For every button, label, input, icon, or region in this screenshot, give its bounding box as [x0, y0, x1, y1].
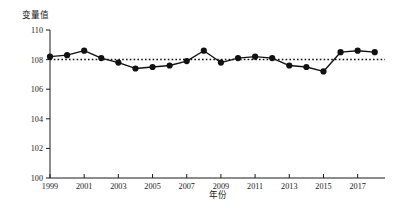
- data-point: [286, 62, 292, 68]
- y-tick-label: 108: [31, 56, 43, 65]
- y-tick-label: 102: [31, 144, 43, 153]
- series-markers: [47, 48, 378, 75]
- data-point: [64, 52, 70, 58]
- data-point: [47, 54, 53, 60]
- x-tick-label: 2017: [349, 182, 365, 191]
- y-tick-label: 106: [31, 85, 43, 94]
- y-tick-label: 110: [31, 26, 43, 35]
- data-point: [81, 48, 87, 54]
- y-tick-label: 104: [31, 115, 43, 124]
- x-tick-label: 2001: [76, 182, 92, 191]
- x-axis: 1999200120032005200720092011201320152017: [42, 174, 385, 191]
- data-point: [303, 64, 309, 70]
- x-tick-label: 2015: [315, 182, 331, 191]
- x-axis-tick-labels: 1999200120032005200720092011201320152017: [42, 182, 366, 191]
- data-point: [167, 62, 173, 68]
- line-chart: 100102104106108110 199920012003200520072…: [0, 0, 400, 208]
- data-point: [337, 49, 343, 55]
- data-point: [372, 49, 378, 55]
- x-tick-label: 2011: [247, 182, 263, 191]
- chart-canvas: 100102104106108110 199920012003200520072…: [0, 0, 400, 208]
- x-tick-label: 2005: [144, 182, 160, 191]
- x-tick-label: 1999: [42, 182, 58, 191]
- x-tick-label: 2013: [281, 182, 297, 191]
- data-point: [98, 55, 104, 61]
- data-point: [235, 55, 241, 61]
- data-point: [320, 68, 326, 74]
- data-point: [149, 64, 155, 70]
- data-point: [184, 58, 190, 64]
- data-point: [252, 54, 258, 60]
- y-axis-tick-labels: 100102104106108110: [31, 26, 43, 183]
- x-tick-label: 2007: [179, 182, 195, 191]
- series-line-path: [50, 51, 375, 72]
- data-point: [355, 48, 361, 54]
- y-axis-ticks: [46, 30, 50, 178]
- x-axis-title: 年份: [209, 189, 227, 200]
- data-point: [218, 59, 224, 65]
- x-axis-ticks: [50, 174, 358, 178]
- data-point: [115, 59, 121, 65]
- data-point: [269, 55, 275, 61]
- y-axis: 100102104106108110: [31, 26, 50, 183]
- data-point: [201, 48, 207, 54]
- x-tick-label: 2003: [110, 182, 126, 191]
- data-point: [132, 65, 138, 71]
- y-axis-title: 变量值: [22, 9, 49, 20]
